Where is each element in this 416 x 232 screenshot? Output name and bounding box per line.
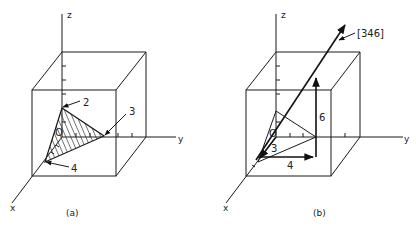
x-axis <box>12 137 62 203</box>
z-axis-label: z <box>281 10 286 20</box>
x-intercept-label: 4 <box>71 163 77 174</box>
figure-b: z y x O 3 4 6 [346] (b) <box>223 10 410 218</box>
direction-vector-346 <box>256 25 345 160</box>
y-intercept-label: 3 <box>129 106 135 117</box>
direction-label: [346] <box>357 28 384 39</box>
x-axis-label: x <box>10 203 16 213</box>
y-component-label: 4 <box>287 160 293 171</box>
origin-label-a: O <box>55 127 63 138</box>
z-component-label: 6 <box>319 112 325 123</box>
x-axis-label: x <box>223 203 229 213</box>
caption-b: (b) <box>313 208 326 218</box>
x-component-label: 3 <box>271 143 277 154</box>
z-intercept-label: 2 <box>83 97 89 108</box>
caption-a: (a) <box>66 208 79 218</box>
y-axis-label: y <box>178 134 184 144</box>
axes-a: z y x <box>10 10 184 213</box>
crystal-plane-direction-diagram: z y x O <box>0 0 416 232</box>
z-axis-label: z <box>67 10 72 20</box>
figure-a: z y x O <box>10 10 184 218</box>
y-axis-label: y <box>404 134 410 144</box>
